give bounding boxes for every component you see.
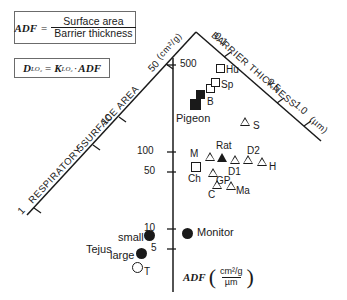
adf-formula-numerator: Surface area xyxy=(60,16,126,27)
k-subscript: LO₂ xyxy=(62,65,73,72)
left-tick-1 xyxy=(34,208,41,213)
datapoint-d1-symbol xyxy=(230,155,240,164)
datapoint-monitor-label: Monitor xyxy=(197,226,234,238)
datapoint-b-symbol xyxy=(196,90,205,99)
datapoint-m-label: M xyxy=(190,148,198,159)
diffusion-adf-term: ADF xyxy=(78,62,101,74)
adf-units-paren-left: ( xyxy=(206,264,217,290)
datapoint-h-label: H xyxy=(269,161,276,172)
left-tick-5 xyxy=(93,145,100,150)
adf-axis-symbol: ADF xyxy=(183,271,206,283)
adf-formula-lhs: ADF xyxy=(14,22,37,34)
datapoint-c-symbol xyxy=(212,180,222,189)
datapoint-h-symbol xyxy=(257,157,267,166)
datapoint-s-label: S xyxy=(253,120,260,131)
datapoint-rat-symbol xyxy=(217,153,227,162)
datapoint-d2-label: D2 xyxy=(247,145,260,156)
datapoint-rat-label: Rat xyxy=(216,140,232,151)
d-symbol: D xyxy=(23,62,31,74)
datapoint-b-label: B xyxy=(207,96,214,107)
datapoint-m-symbol xyxy=(205,152,215,161)
adf-units-numerator: cm²/g xyxy=(217,267,246,276)
diffusion-capacity-box: DLO₂ = KLO₂ · ADF xyxy=(14,58,110,78)
group-label-tejus: Tejus xyxy=(86,243,112,255)
datapoint-t-label: T xyxy=(144,266,150,277)
center-tick-label-500: 500 xyxy=(180,58,197,69)
center-tick-label-50: 50 xyxy=(144,165,155,176)
datapoint-hu-label: Hu xyxy=(226,64,239,75)
adf-units-denominator: µm xyxy=(222,277,241,287)
k-symbol: K xyxy=(54,62,61,74)
datapoint-c-label: C xyxy=(208,189,215,200)
datapoint-ch-label: Ch xyxy=(188,173,201,184)
datapoint-ma-symbol xyxy=(226,181,236,190)
diffusion-equals: = xyxy=(42,62,54,74)
datapoint-tejus-large-symbol xyxy=(136,248,147,259)
d-subscript: LO₂ xyxy=(31,65,42,72)
datapoint-ch-symbol xyxy=(191,162,201,172)
datapoint-s-symbol xyxy=(240,117,250,126)
datapoint-pigeon-symbol xyxy=(190,99,201,110)
datapoint-tejus-small-label: small xyxy=(118,231,144,243)
datapoint-tejus-small-symbol xyxy=(144,230,155,241)
datapoint-monitor-symbol xyxy=(182,228,193,239)
adf-axis-label: ADF ( cm²/g µm ) xyxy=(183,264,256,290)
adf-formula-denominator: Barrier thickness xyxy=(51,27,135,39)
datapoint-t-symbol xyxy=(132,262,143,273)
adf-definition-box: ADF = Surface area Barrier thickness xyxy=(14,11,136,44)
center-tick-label-100: 100 xyxy=(137,145,154,156)
datapoint-tejus-large-label: large xyxy=(110,249,134,261)
adf-formula-equals: = xyxy=(37,22,51,34)
datapoint-sp-symbol-front xyxy=(211,78,220,87)
left-tick-10 xyxy=(119,117,126,122)
adf-units-paren-right: ) xyxy=(245,264,255,290)
nomogram-figure: ADF = Surface area Barrier thickness DLO… xyxy=(0,0,347,300)
datapoint-sp-label: Sp xyxy=(221,79,233,90)
datapoint-hu-symbol xyxy=(216,64,225,73)
datapoint-pigeon-label: Pigeon xyxy=(176,112,210,124)
datapoint-ma-label: Ma xyxy=(236,185,250,196)
center-tick-label-5: 5 xyxy=(151,242,157,253)
datapoint-d2-symbol xyxy=(243,155,253,164)
